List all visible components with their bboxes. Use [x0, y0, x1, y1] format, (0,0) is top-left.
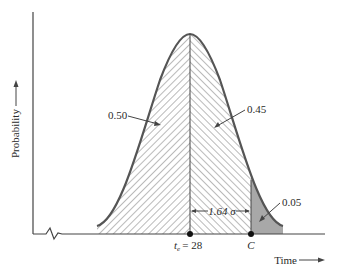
area-label-left: 0.50: [108, 109, 128, 121]
distance-label: 1.64 σ: [208, 205, 236, 217]
critical-point: [248, 231, 254, 237]
y-axis-title: Probability: [9, 109, 21, 158]
normal-distribution-figure: 1.64 σ 0.50 0.45 0.05 te= 28 C Time Prob…: [0, 0, 360, 279]
mean-label: te= 28: [174, 239, 203, 253]
area-label-tail: 0.05: [282, 196, 302, 208]
x-axis-title: Time: [274, 254, 297, 266]
critical-label: C: [247, 239, 255, 251]
y-axis-arrow: [14, 80, 19, 106]
mean-point: [187, 231, 193, 237]
area-label-center: 0.45: [247, 103, 267, 115]
x-axis-arrow: [299, 258, 325, 263]
